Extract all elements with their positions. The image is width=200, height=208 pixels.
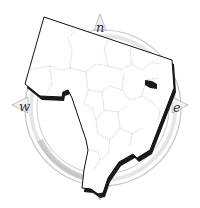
county-map: n w e bbox=[0, 0, 200, 208]
compass-north-label: n bbox=[96, 20, 104, 35]
compass-west-label: w bbox=[19, 99, 30, 114]
county-outline bbox=[25, 17, 174, 194]
compass-east-label: e bbox=[173, 100, 181, 115]
